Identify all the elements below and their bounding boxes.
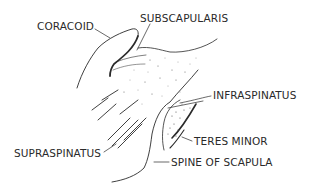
label-infraspinatus: INFRASPINATUS xyxy=(213,90,296,101)
leader-teres-minor xyxy=(182,137,192,141)
shoulder-contour xyxy=(138,39,217,52)
label-coracoid: CORACOID xyxy=(37,21,94,32)
stipple-shading xyxy=(124,58,197,137)
label-spine-of-scapula: SPINE OF SCAPULA xyxy=(171,157,273,168)
leader-subscapularis xyxy=(137,24,150,50)
label-supraspinatus: SUPRASPINATUS xyxy=(14,148,101,159)
left-hand-outline xyxy=(77,29,138,88)
anatomy-figure: CORACOID SUBSCAPULARIS INFRASPINATUS TER… xyxy=(0,0,312,186)
label-subscapularis: SUBSCAPULARIS xyxy=(140,13,228,24)
leader-infraspinatus xyxy=(180,96,211,103)
leader-coracoid xyxy=(95,29,110,38)
supraspinatus-fibers xyxy=(92,90,146,148)
leader-supraspinatus xyxy=(104,144,116,152)
label-teres-minor: TERES MINOR xyxy=(194,136,268,147)
